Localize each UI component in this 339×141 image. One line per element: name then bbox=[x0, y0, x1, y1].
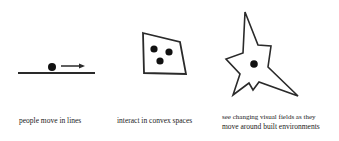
line-movement-figure bbox=[18, 63, 95, 73]
person-dot-icon bbox=[250, 60, 258, 68]
caption-line-1: see changing visual fields as they bbox=[222, 113, 320, 122]
arrow-right-icon bbox=[61, 64, 85, 69]
isovist-star-outline bbox=[226, 12, 298, 96]
convex-space-figure bbox=[143, 33, 186, 74]
person-dot-icon bbox=[165, 48, 172, 55]
person-dot-icon bbox=[156, 57, 163, 64]
caption-convex: interact in convex spaces bbox=[117, 116, 192, 125]
caption-line-2: move around built environments bbox=[222, 122, 320, 131]
convex-space-outline bbox=[143, 33, 186, 74]
person-dot-icon bbox=[48, 63, 56, 71]
caption-lines: people move in lines bbox=[19, 116, 81, 125]
person-dot-icon bbox=[150, 45, 157, 52]
caption-visual-fields: see changing visual fields as they move … bbox=[222, 113, 320, 131]
isovist-figure bbox=[226, 12, 298, 96]
